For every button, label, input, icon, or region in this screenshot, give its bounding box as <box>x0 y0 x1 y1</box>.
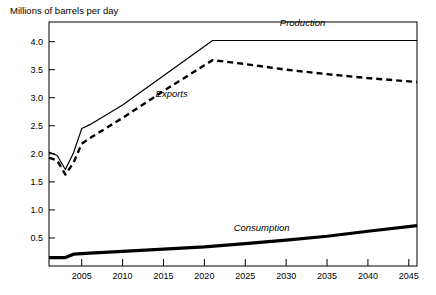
series-labels: ProductionExportsConsumption <box>156 17 326 233</box>
y-tick-label: 2.5 <box>30 121 43 131</box>
x-tick-label: 2010 <box>113 271 133 281</box>
y-tick-label: 3.0 <box>30 93 43 103</box>
y-tick-label: 1.0 <box>30 205 43 215</box>
series-label-production: Production <box>280 17 325 28</box>
series-label-exports: Exports <box>156 88 188 99</box>
x-tick-label: 2005 <box>72 271 92 281</box>
y-tick-label: 3.5 <box>30 65 43 75</box>
chart-figure: Millions of barrels per day 0.51.01.52.0… <box>0 0 436 295</box>
y-tick-label: 2.0 <box>30 149 43 159</box>
series-line-exports <box>49 60 417 174</box>
x-tick-label: 2040 <box>358 271 378 281</box>
y-axis-ticks: 0.51.01.52.02.53.03.54.0 <box>30 37 55 243</box>
x-tick-label: 2020 <box>194 271 214 281</box>
y-tick-label: 4.0 <box>30 37 43 47</box>
series-line-production <box>49 41 417 170</box>
x-axis-ticks: 200520102015202020252030203520402045 <box>72 259 419 281</box>
chart-axis-title: Millions of barrels per day <box>10 5 118 16</box>
x-tick-label: 2015 <box>153 271 173 281</box>
y-tick-label: 0.5 <box>30 233 43 243</box>
series-label-consumption: Consumption <box>234 222 290 233</box>
x-tick-label: 2045 <box>399 271 419 281</box>
x-tick-label: 2030 <box>276 271 296 281</box>
chart-svg: Millions of barrels per day 0.51.01.52.0… <box>0 0 436 295</box>
y-tick-label: 1.5 <box>30 177 43 187</box>
x-tick-label: 2025 <box>235 271 255 281</box>
x-tick-label: 2035 <box>317 271 337 281</box>
